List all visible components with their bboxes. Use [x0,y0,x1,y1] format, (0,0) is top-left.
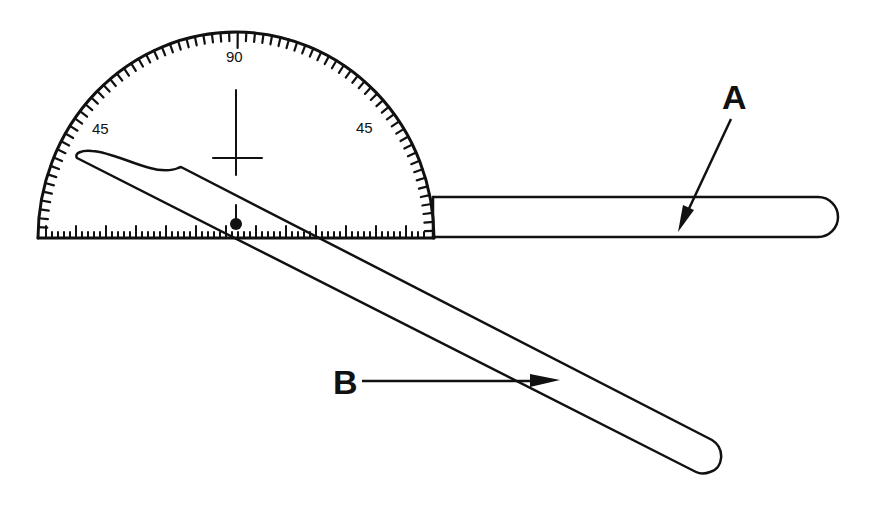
scale-label-left-45: 45 [92,120,109,137]
pivot-rivet [230,218,242,230]
stationary-arm [433,197,838,237]
callout-label-b: B [333,363,358,402]
scale-label-right-45: 45 [356,119,373,136]
goniometer-drawing [0,0,871,507]
callout-label-a: A [722,78,747,117]
callout-arrow-a [678,119,731,232]
callout-arrow-b [362,374,560,387]
scale-label-90: 90 [226,48,243,65]
moving-arm [76,151,721,474]
goniometer-diagram: 45 90 45 A B [0,0,871,507]
